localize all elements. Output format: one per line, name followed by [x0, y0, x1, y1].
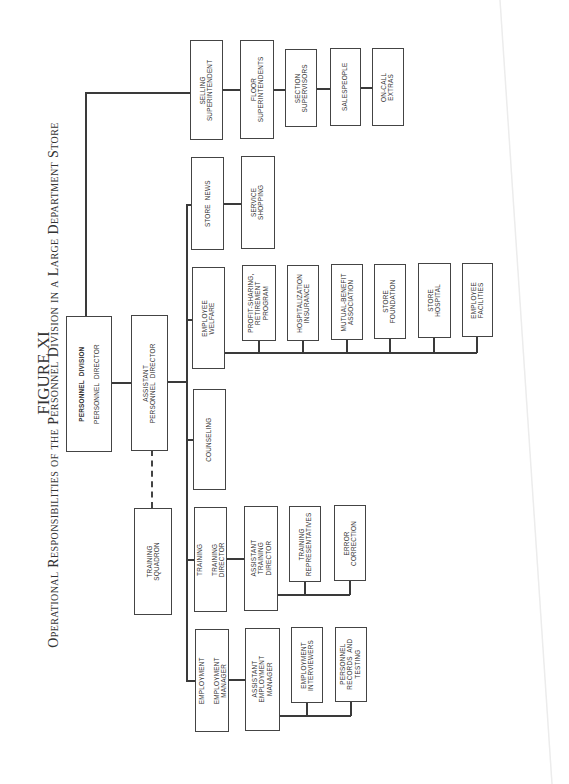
node-employment: EMPLOYMENT EMPLOYMENT MANAGER — [195, 629, 229, 732]
connector-line — [304, 580, 306, 595]
node-label: STORE HOSPITAL — [427, 284, 442, 317]
connector-line — [258, 340, 260, 353]
node-label: SELLING SUPERINTENDENT — [199, 59, 214, 120]
node-employee-facilities: EMPLOYEE FACILITIES — [462, 263, 493, 337]
node-employee-welfare: EMPLOYEE WELFARE — [192, 267, 225, 369]
connector-line — [433, 337, 435, 353]
node-label: TRAINING SQUADRON — [146, 542, 161, 581]
node-store-news: STORE NEWS — [191, 157, 224, 250]
node-label: ASSISTANT PERSONNEL DIRECTOR — [142, 343, 157, 423]
node-label: STORE FOUNDATION — [383, 280, 398, 324]
node-label: TRAINING REPRESENTATIVES — [298, 512, 313, 576]
node-service-shopping: SERVICE SHOPPING — [241, 156, 275, 249]
node-label: SALESPEOPLE — [342, 63, 349, 111]
node-label: TRAINING TRAINING DIRECTOR — [196, 542, 226, 577]
node-label: FLOOR SUPERINTENDENTS — [250, 57, 265, 123]
node-salespeople: SALESPEOPLE — [330, 48, 361, 126]
connector-line — [277, 594, 350, 596]
node-label: COUNSELING — [206, 417, 213, 461]
node-label: STORE NEWS — [204, 180, 211, 227]
node-error-correction: ERROR CORRECTION — [334, 505, 366, 581]
node-training-representatives: TRAINING REPRESENTATIVES — [289, 506, 321, 582]
connector-line — [226, 558, 245, 560]
connector-line — [111, 382, 132, 384]
node-selling-superintendent: SELLING SUPERINTENDENT — [190, 40, 223, 140]
node-label: SERVICE SHOPPING — [251, 185, 266, 220]
main-trunk-line — [186, 204, 188, 682]
connector-line — [279, 715, 351, 717]
node-label: ON-CALL EXTRAS — [381, 72, 396, 101]
node-subtitle: PERSONNEL DIRECTOR — [93, 344, 100, 424]
node-label: ASSISTANT TRAINING DIRECTOR — [250, 540, 272, 577]
node-counseling: COUNSELING — [193, 389, 226, 490]
node-mutual-benefit: MUTUAL-BENEFIT ASSOCIATION — [331, 264, 363, 340]
node-employment-interviewers: EMPLOYMENT INTERVIEWERS — [291, 627, 323, 703]
connector-line — [224, 352, 477, 354]
dashed-connector — [151, 450, 153, 508]
connector-line — [167, 381, 188, 383]
node-training-squadron: TRAINING SQUADRON — [134, 508, 172, 615]
node-personnel-division: PERSONNEL DIVISIONPERSONNEL DIRECTOR — [66, 316, 112, 452]
connector-line — [223, 203, 242, 205]
node-section-supervisors: SECTION SUPERVISORS — [285, 49, 317, 127]
node-label: MUTUAL-BENEFIT ASSOCIATION — [340, 273, 355, 331]
node-floor-superintendents: FLOOR SUPERINTENDENTS — [240, 40, 274, 139]
connector-line — [222, 89, 241, 91]
connector-line — [476, 336, 478, 353]
node-hospitalization-insurance: HOSPITALIZATION INSURANCE — [287, 265, 319, 341]
node-on-call-extras: ON-CALL EXTRAS — [372, 48, 404, 126]
connector-line — [306, 701, 308, 716]
connector-line — [349, 579, 351, 595]
node-label: ASSISTANT EMPLOYMENT MANAGER — [251, 656, 273, 703]
connector-line — [228, 679, 246, 681]
figure-caption: Operational Responsibilities of the Pers… — [46, 55, 62, 715]
node-assistant-training-director: ASSISTANT TRAINING DIRECTOR — [244, 506, 278, 611]
node-label: ERROR CORRECTION — [343, 521, 358, 566]
node-assistant-employment-manager: ASSISTANT EMPLOYMENT MANAGER — [245, 628, 280, 731]
node-label: EMPLOYEE WELFARE — [201, 300, 216, 337]
node-store-foundation: STORE FOUNDATION — [374, 264, 406, 339]
node-assistant-personnel-director: ASSISTANT PERSONNEL DIRECTOR — [131, 315, 168, 451]
node-store-hospital: STORE HOSPITAL — [418, 263, 451, 338]
node-label: HOSPITALIZATION INSURANCE — [296, 274, 311, 333]
connector-line — [85, 92, 191, 94]
node-training: TRAINING TRAINING DIRECTOR — [194, 507, 227, 612]
connector-line — [302, 340, 304, 353]
node-label: EMPLOYEE FACILITIES — [470, 282, 485, 319]
connector-line — [389, 338, 391, 353]
node-personnel-records-testing: PERSONNEL RECORDS AND TESTING — [335, 627, 367, 702]
node-title: PERSONNEL DIVISION — [78, 346, 85, 421]
connector-line — [346, 339, 348, 353]
connector-line — [316, 88, 330, 90]
node-label: EMPLOYMENT INTERVIEWERS — [300, 640, 315, 691]
connector-line — [350, 700, 352, 716]
node-label: PROFIT-SHARING, RETIREMENT PROGRAM — [248, 273, 270, 332]
node-profit-sharing: PROFIT-SHARING, RETIREMENT PROGRAM — [242, 265, 276, 341]
node-label: PERSONNEL RECORDS AND TESTING — [340, 639, 362, 690]
node-label: SECTION SUPERVISORS — [294, 64, 309, 112]
connector-line — [85, 92, 87, 317]
node-label: EMPLOYMENT EMPLOYMENT MANAGER — [197, 657, 227, 704]
